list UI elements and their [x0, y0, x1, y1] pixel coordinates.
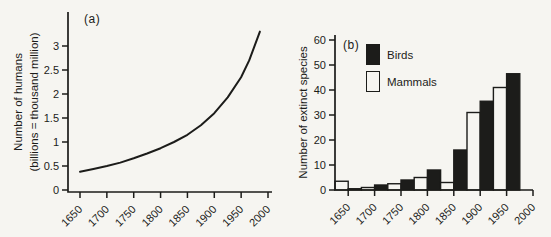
panel-b-x-tick-label: 1750 — [380, 201, 406, 227]
panel-b-y-tick-label: 30 — [314, 109, 326, 121]
legend-row-birds: Birds — [366, 44, 437, 65]
panel-a-y-tick-label: 0.5 — [44, 160, 59, 172]
panel-a-y-axis-title-line1: Number of humans — [11, 9, 27, 195]
mammals-bar — [388, 184, 401, 190]
panel-a-x-tick-label: 1750 — [112, 203, 138, 229]
panel-b-y-tick-label: 60 — [314, 34, 326, 46]
panel-b-label: (b) — [343, 38, 359, 52]
panel-a-x-tick-label: 1650 — [59, 203, 85, 229]
panel-a-y-tick-label: 1.5 — [44, 112, 59, 124]
birds-bar — [427, 170, 440, 190]
panel-a-y-axis-title-line2: (billions = thousand million) — [27, 9, 43, 195]
birds-swatch-icon — [366, 44, 380, 65]
panel-a-x-tick-label: 2000 — [247, 203, 273, 229]
panel-a-y-tick-label: 2.5 — [44, 64, 59, 76]
panel-b-x-tick-label: 1950 — [485, 201, 511, 227]
panel-b-x-tick-label: 1700 — [353, 201, 379, 227]
panel-a-y-tick-label: 3 — [53, 40, 59, 52]
panel-b-y-tick-label: 20 — [314, 134, 326, 146]
panel-a-y-tick-label: 1 — [53, 136, 59, 148]
population-curve — [80, 32, 260, 172]
panel-b-x-tick-label: 1650 — [327, 201, 353, 227]
panel-a-axes — [68, 12, 272, 192]
mammals-bar — [493, 88, 506, 191]
panel-b-y-tick-label: 10 — [314, 159, 326, 171]
birds-bar — [507, 74, 520, 190]
panel-a-y-tick-label: 2 — [53, 88, 59, 100]
textbook-figure: 00.511.522.53165017001750180018501900195… — [0, 0, 551, 237]
birds-bar — [480, 101, 493, 190]
mammals-bar — [414, 178, 427, 191]
legend-label-birds: Birds — [380, 49, 413, 61]
legend-label-mammals: Mammals — [380, 76, 437, 88]
mammals-bar — [467, 113, 480, 191]
panel-b-x-tick-label: 1900 — [459, 201, 485, 227]
panel-b-y-axis-title: Number of extinct species — [296, 31, 311, 195]
panel-b-x-tick-label: 2000 — [512, 201, 538, 227]
charts-canvas: 00.511.522.53165017001750180018501900195… — [0, 0, 551, 237]
legend: Birds Mammals — [366, 44, 437, 98]
panel-a-y-axis-title: Number of humans (billions = thousand mi… — [11, 9, 43, 195]
mammals-bar — [441, 183, 454, 191]
panel-b-y-tick-label: 40 — [314, 84, 326, 96]
mammals-swatch-icon — [366, 71, 380, 92]
panel-b-y-tick-label: 0 — [320, 184, 326, 196]
panel-a-label: (a) — [84, 12, 100, 26]
legend-row-mammals: Mammals — [366, 71, 437, 92]
panel-b-x-tick-label: 1800 — [406, 201, 432, 227]
birds-bar — [454, 150, 467, 190]
panel-a-x-tick-label: 1950 — [220, 203, 246, 229]
panel-a-x-tick-label: 1700 — [85, 203, 111, 229]
panel-a-x-tick-label: 1900 — [193, 203, 219, 229]
birds-bar — [401, 180, 414, 190]
panel-a-x-tick-label: 1850 — [166, 203, 192, 229]
panel-a-x-tick-label: 1800 — [139, 203, 165, 229]
mammals-bar — [335, 181, 348, 190]
panel-b-y-tick-label: 50 — [314, 59, 326, 71]
panel-b-x-tick-label: 1850 — [432, 201, 458, 227]
panel-a-y-tick-label: 0 — [53, 184, 59, 196]
